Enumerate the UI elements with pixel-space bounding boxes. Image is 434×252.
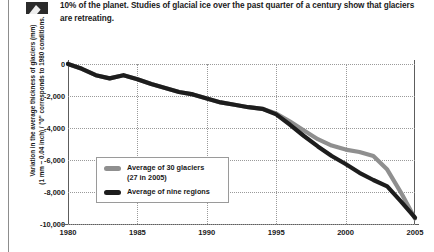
legend-label-2: Average of nine regions (127, 187, 210, 197)
legend-label-1-main: Average of 30 glaciers (127, 163, 204, 172)
legend-label-1-sub: (27 in 2005) (127, 173, 204, 183)
caption-text: 10% of the planet. Studies of glacial ic… (60, 0, 420, 25)
page-margin-rule (8, 0, 9, 252)
legend: Average of 30 glaciers (27 in 2005) Aver… (96, 157, 229, 203)
x-axis-tick-label: 2005 (407, 228, 424, 237)
x-axis-tick-label: 1990 (198, 228, 215, 237)
x-axis-tick-labels: 198019851990199520002005 (68, 228, 415, 242)
grid-line-horizontal (68, 224, 415, 225)
legend-label-1: Average of 30 glaciers (27 in 2005) (127, 163, 204, 183)
x-axis-tick-label: 1995 (268, 228, 285, 237)
y-axis-tick-label: -6,000 (44, 156, 65, 165)
y-axis-tick-labels: 0-2,000-4,000-6,000-8,000-10,000 (18, 64, 65, 224)
y-axis-tick-label: -2,000 (44, 92, 65, 101)
legend-item-average-30-glaciers: Average of 30 glaciers (27 in 2005) (104, 163, 204, 183)
x-axis-tick-label: 1985 (129, 228, 146, 237)
legend-item-average-nine-regions: Average of nine regions (104, 187, 210, 197)
y-axis-tick-label: 0 (61, 60, 65, 69)
legend-swatch-black (104, 190, 121, 195)
figure-root: 10% of the planet. Studies of glacial ic… (0, 0, 434, 252)
y-axis-tick-label: -8,000 (44, 188, 65, 197)
legend-label-2-main: Average of nine regions (127, 187, 210, 196)
caption-block: 10% of the planet. Studies of glacial ic… (26, 1, 426, 31)
y-axis-tick-label: -4,000 (44, 124, 65, 133)
x-axis-tick-label: 2000 (337, 228, 354, 237)
legend-swatch-gray (104, 166, 121, 171)
x-axis-tick-label: 1980 (60, 228, 77, 237)
